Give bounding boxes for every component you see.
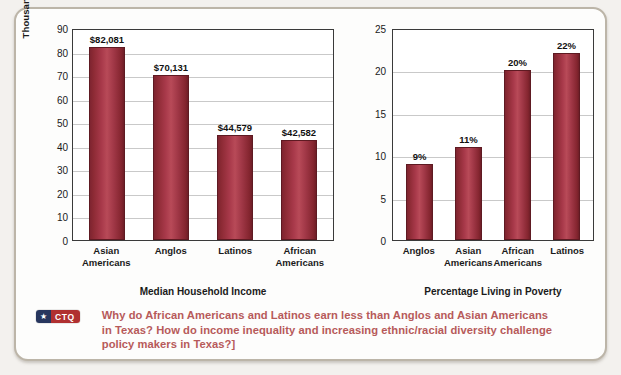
- x-axis-category-label: Anglos: [394, 245, 444, 279]
- y-axis-tick: 40: [57, 141, 68, 152]
- y-axis-tick: 0: [62, 236, 68, 247]
- chart-median-household-income: Thousands of 2016 Dollars 90807060504030…: [22, 15, 352, 311]
- y-axis-tick: 20: [57, 188, 68, 199]
- ctq-badge-label: CTQ: [51, 310, 80, 323]
- plot-area-left: $82,081$70,131$44,579$42,582: [72, 29, 334, 241]
- bar-series-left: $82,081$70,131$44,579$42,582: [73, 30, 333, 240]
- bar: $70,131: [153, 75, 189, 240]
- x-axis-category-label: Latinos: [203, 245, 268, 279]
- bar-value-label: 20%: [508, 57, 527, 68]
- x-axis-categories-right: AnglosAsianAmericansAfricanAmericansLati…: [392, 245, 594, 279]
- charts-container: Thousands of 2016 Dollars 90807060504030…: [16, 15, 609, 311]
- bar-cell: 9%: [395, 30, 444, 240]
- bar-value-label: $82,081: [90, 34, 124, 45]
- bar: $82,081: [89, 47, 125, 240]
- y-axis-tick: 20: [375, 66, 386, 77]
- bar-series-right: 9%11%20%22%: [393, 30, 593, 240]
- bar-cell: $42,582: [267, 30, 331, 240]
- ctq-badge: ★ CTQ: [36, 310, 80, 323]
- bar: 11%: [455, 147, 482, 240]
- x-axis-category-label: AsianAmericans: [74, 245, 139, 279]
- y-axis-tick: 15: [375, 108, 386, 119]
- bar-cell: 22%: [542, 30, 591, 240]
- bar: 20%: [504, 70, 531, 240]
- bar: 22%: [553, 53, 580, 240]
- chart-percentage-living-in-poverty: 2520151050 9%11%20%22% AnglosAsianAmeric…: [352, 15, 604, 311]
- chart-title-left: Median Household Income: [72, 286, 334, 297]
- y-axis-tick: 80: [57, 47, 68, 58]
- plot-frame-right: 9%11%20%22%: [392, 29, 594, 241]
- y-axis-tick: 5: [380, 193, 386, 204]
- plot-frame-left: $82,081$70,131$44,579$42,582: [72, 29, 334, 241]
- bar-value-label: $44,579: [218, 122, 252, 133]
- bar-value-label: 11%: [459, 134, 478, 145]
- x-axis-categories-left: AsianAmericansAnglosLatinosAfricanAmeric…: [72, 245, 334, 279]
- star-icon: ★: [36, 310, 51, 323]
- figure-frame: Thousands of 2016 Dollars 90807060504030…: [14, 7, 607, 361]
- bar: $42,582: [281, 140, 317, 240]
- y-axis-tick: 30: [57, 165, 68, 176]
- bar-cell: $44,579: [203, 30, 267, 240]
- chart-title-right: Percentage Living in Poverty: [392, 286, 594, 297]
- y-axis-tick: 25: [375, 24, 386, 35]
- y-axis-tick: 70: [57, 71, 68, 82]
- bar: 9%: [406, 164, 433, 240]
- plot-area-right: 9%11%20%22%: [392, 29, 594, 241]
- bar-value-label: $70,131: [154, 62, 188, 73]
- bar-value-label: 22%: [557, 40, 576, 51]
- x-axis-category-label: Latinos: [543, 245, 593, 279]
- y-axis-tick: 0: [380, 236, 386, 247]
- bar: $44,579: [217, 135, 253, 240]
- caption: ★ CTQ Why do African Americans and Latin…: [30, 308, 595, 352]
- y-axis-ticks-right: 2520151050: [354, 15, 386, 311]
- y-axis-ticks-left: 9080706050403020100: [30, 15, 68, 311]
- x-axis-category-label: AsianAmericans: [444, 245, 494, 279]
- bar-cell: $70,131: [139, 30, 203, 240]
- bar-value-label: $42,582: [282, 127, 316, 138]
- figure-page: Thousands of 2016 Dollars 90807060504030…: [0, 0, 621, 375]
- y-axis-tick: 10: [375, 151, 386, 162]
- bar-cell: $82,081: [75, 30, 139, 240]
- x-axis-category-label: Anglos: [139, 245, 204, 279]
- y-axis-tick: 50: [57, 118, 68, 129]
- y-axis-tick: 10: [57, 212, 68, 223]
- y-axis-tick: 90: [57, 24, 68, 35]
- caption-text: Why do African Americans and Latinos ear…: [102, 308, 554, 352]
- bar-value-label: 9%: [413, 151, 427, 162]
- bar-cell: 11%: [444, 30, 493, 240]
- bar-cell: 20%: [493, 30, 542, 240]
- y-axis-tick: 60: [57, 94, 68, 105]
- x-axis-category-label: AfricanAmericans: [493, 245, 543, 279]
- x-axis-category-label: AfricanAmericans: [268, 245, 333, 279]
